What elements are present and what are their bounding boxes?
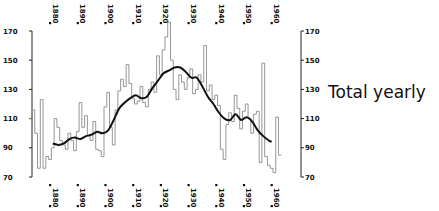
top-year-label: 1890: [78, 4, 86, 24]
left-y-axis: 7090110130150170: [3, 28, 32, 182]
right-y-tick-label: 110: [305, 115, 320, 123]
top-year-label: 1930: [189, 4, 197, 24]
left-y-tick-label: 150: [3, 57, 18, 65]
top-year-label: 1900: [106, 4, 114, 24]
bottom-year-labels: 188018901900191019201930194019501960: [49, 184, 280, 208]
bottom-year-label: 1920: [161, 188, 169, 208]
right-y-tick-label: 90: [305, 144, 315, 152]
bottom-year-label: 1900: [106, 188, 114, 208]
bottom-year-label: 1880: [51, 188, 59, 208]
bottom-year-label: 1930: [189, 188, 197, 208]
bottom-year-label: 1940: [217, 188, 225, 208]
top-year-label: 1880: [51, 4, 59, 24]
top-year-label: 1960: [272, 4, 280, 24]
right-y-tick-label: 130: [305, 86, 320, 94]
yearly-step-series: [29, 22, 281, 172]
right-y-tick-label: 170: [305, 28, 320, 36]
smoothed-trend-line: [53, 67, 272, 145]
bottom-year-label: 1960: [272, 188, 280, 208]
top-year-label: 1940: [217, 4, 225, 24]
left-y-tick-label: 90: [3, 144, 13, 152]
top-year-label: 1920: [161, 4, 169, 24]
right-y-tick-label: 150: [305, 57, 320, 65]
right-y-axis: 7090110130150170: [301, 28, 320, 182]
left-y-tick-label: 110: [3, 115, 18, 123]
yearly-total-chart: 7090110130150170 7090110130150170 188018…: [0, 0, 439, 211]
top-year-labels: 188018901900191019201930194019501960: [49, 4, 280, 24]
bottom-year-label: 1890: [78, 188, 86, 208]
bottom-year-label: 1910: [134, 188, 142, 208]
top-year-label: 1950: [244, 4, 252, 24]
left-y-tick-label: 130: [3, 86, 18, 94]
right-y-tick-label: 70: [305, 174, 315, 182]
left-y-tick-label: 170: [3, 28, 18, 36]
left-y-tick-label: 70: [3, 174, 13, 182]
bottom-year-label: 1950: [244, 188, 252, 208]
chart-side-title: Total yearly: [328, 82, 426, 102]
top-year-label: 1910: [134, 4, 142, 24]
